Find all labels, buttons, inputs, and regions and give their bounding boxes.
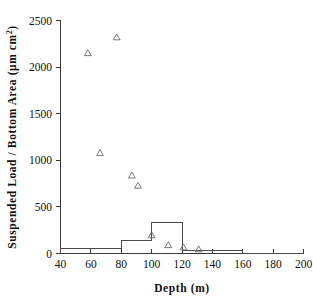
data-point xyxy=(165,242,172,248)
y-axis-title-main: Suspended Load / Bottom Area (μm cm xyxy=(6,34,19,249)
x-tick-label: 160 xyxy=(234,258,252,270)
x-tick-labels: 40 60 80 100 120 140 160 180 200 xyxy=(55,258,313,270)
x-tick-label: 80 xyxy=(116,258,128,270)
data-point xyxy=(129,172,136,178)
y-axis-title-suffix: ) xyxy=(6,25,19,29)
data-point xyxy=(84,50,91,56)
y-tick-label: 0 xyxy=(46,248,52,260)
data-point xyxy=(97,150,104,156)
x-axis-title: Depth (m) xyxy=(154,282,210,295)
x-tick-label: 40 xyxy=(55,258,67,270)
data-point-markers xyxy=(84,34,202,252)
x-tick-label: 180 xyxy=(264,258,282,270)
x-tick-label: 100 xyxy=(143,258,161,270)
x-tick-label: 140 xyxy=(204,258,222,270)
y-tick-label: 500 xyxy=(35,201,53,213)
histogram-outline xyxy=(61,223,304,254)
data-point xyxy=(180,244,187,250)
data-point xyxy=(135,182,142,188)
y-tick-label: 2000 xyxy=(29,61,52,73)
y-tick-label: 1500 xyxy=(29,108,52,120)
data-point xyxy=(113,34,120,40)
y-axis-title: Suspended Load / Bottom Area (μm cm2) xyxy=(5,25,19,249)
y-tick-marks xyxy=(56,21,61,254)
y-tick-label: 2500 xyxy=(29,15,52,27)
x-tick-label: 120 xyxy=(173,258,191,270)
x-tick-label: 200 xyxy=(295,258,313,270)
x-tick-label: 60 xyxy=(85,258,97,270)
y-tick-labels: 0 500 1000 1500 2000 2500 xyxy=(29,15,52,260)
chart-figure: 0 500 1000 1500 2000 2500 40 60 80 100 1… xyxy=(0,0,313,308)
scatter-histogram-plot: 0 500 1000 1500 2000 2500 40 60 80 100 1… xyxy=(0,0,313,308)
y-tick-label: 1000 xyxy=(29,154,52,166)
